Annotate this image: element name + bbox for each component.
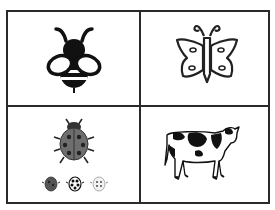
- cell-bee: [8, 12, 139, 105]
- cell-butterfly: [141, 12, 270, 105]
- cell-cow: [141, 107, 270, 202]
- small-ladybug-icon-black: [66, 175, 84, 193]
- bee-icon: [44, 23, 104, 95]
- picture-grid: [6, 10, 270, 204]
- butterfly-icon: [169, 18, 245, 96]
- cell-ladybugs: [8, 107, 139, 202]
- small-ladybug-icon-light: [90, 175, 108, 193]
- ladybug-icon: [52, 117, 96, 165]
- small-ladybug-icon-gray: [42, 175, 60, 193]
- cow-icon: [161, 121, 245, 187]
